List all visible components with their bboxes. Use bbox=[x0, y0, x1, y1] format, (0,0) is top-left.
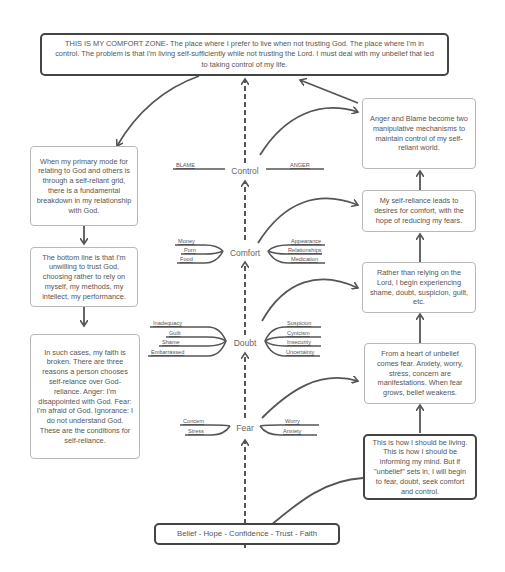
comfort-right-branch-label: Relationships bbox=[288, 247, 322, 253]
fear-right-branch-label: Anxiety bbox=[283, 428, 301, 434]
comfort-left-branch-line bbox=[175, 245, 223, 251]
comfort-left-branch-label: Porn bbox=[184, 247, 196, 253]
fear-right-branch-line bbox=[260, 425, 319, 426]
arrow-right1-to-top bbox=[300, 80, 358, 103]
right-box-anger-blame: Anger and Blame become two manipulative … bbox=[362, 98, 476, 169]
left-box-text: When my primary mode for relating to God… bbox=[36, 157, 132, 216]
right-box-text: From a heart of unbelief comes fear. Anx… bbox=[370, 349, 470, 398]
right-box-unbelief-fear: From a heart of unbelief comes fear. Anx… bbox=[364, 343, 476, 404]
fear-right-branch-label: Worry bbox=[285, 418, 300, 424]
doubt-right-branch-label: Insecurity bbox=[287, 339, 311, 345]
node-comfort: Comfort bbox=[230, 248, 260, 258]
comfort-left-branch-label: Food bbox=[180, 256, 193, 262]
control-right-branch-label: ANGER bbox=[290, 162, 310, 168]
node-fear: Fear bbox=[236, 423, 253, 433]
right-box-shame-doubt: Rather than relying on the Lord, I begin… bbox=[362, 262, 476, 313]
fear-left-branch-label: Concern bbox=[183, 418, 204, 424]
arrow-comfort-to-right2 bbox=[258, 198, 358, 243]
left-box-broken-faith: In such cases, my faith is broken. There… bbox=[30, 334, 140, 459]
comfort-right-branch-label: Medication bbox=[291, 256, 318, 262]
right-box-self-reliance: My self-reliance leads to desires for co… bbox=[362, 190, 476, 232]
doubt-left-branch-label: Shame bbox=[162, 339, 180, 345]
doubt-right-branch-label: Cynicism bbox=[287, 330, 310, 336]
node-control: Control bbox=[231, 166, 258, 176]
left-box-unwilling: The bottom line is that I'm unwilling to… bbox=[30, 247, 138, 307]
arrow-top-to-left1 bbox=[117, 76, 199, 146]
right-box-text: My self-reliance leads to desires for co… bbox=[368, 196, 470, 225]
left-box-text: In such cases, my faith is broken. There… bbox=[36, 348, 134, 446]
belief-chain-box: Belief - Hope - Confidence - Trust - Fai… bbox=[154, 523, 340, 545]
right-box-text: Rather than relying on the Lord, I begin… bbox=[368, 268, 470, 307]
belief-chain-text: Belief - Hope - Confidence - Trust - Fai… bbox=[177, 529, 317, 539]
comfort-zone-box: THIS IS MY COMFORT ZONE- The place where… bbox=[40, 33, 449, 76]
doubt-left-branch-label: Embarrassed bbox=[151, 349, 184, 355]
doubt-left-branch-label: Inadequacy bbox=[153, 320, 182, 326]
arrow-doubt-to-right3 bbox=[262, 279, 358, 321]
right-box-text: Anger and Blame become two manipulative … bbox=[368, 114, 470, 153]
node-doubt: Doubt bbox=[234, 338, 257, 348]
comfort-zone-text: THIS IS MY COMFORT ZONE- The place where… bbox=[52, 39, 437, 70]
fear-left-branch-line bbox=[180, 425, 230, 426]
fear-left-branch-label: Stress bbox=[188, 428, 204, 434]
comfort-right-branch-label: Appearance bbox=[291, 238, 321, 244]
right-box-text: This is how I should be living. This is … bbox=[370, 438, 470, 497]
right-box-should-be-living: This is how I should be living. This is … bbox=[363, 434, 477, 500]
left-box-text: The bottom line is that I'm unwilling to… bbox=[36, 253, 132, 302]
comfort-left-branch-label: Money bbox=[178, 238, 195, 244]
arrow-control-to-right1 bbox=[260, 108, 358, 155]
doubt-right-branch-label: Uncertainty bbox=[286, 349, 314, 355]
arrow-fear-to-right4 bbox=[262, 378, 358, 418]
control-left-branch-label: BLAME bbox=[176, 162, 195, 168]
doubt-left-branch-label: Guilt bbox=[169, 330, 181, 336]
left-box-breakdown: When my primary mode for relating to God… bbox=[30, 146, 138, 226]
doubt-right-branch-label: Suspicion bbox=[287, 320, 311, 326]
